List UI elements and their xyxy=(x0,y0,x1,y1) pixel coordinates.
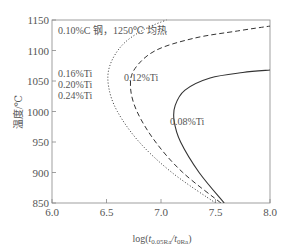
y-tick-label: 1150 xyxy=(27,14,49,26)
y-tick-label: 950 xyxy=(33,136,50,148)
series-group xyxy=(108,20,270,203)
series-line-dashed xyxy=(130,26,270,203)
label-0-16ti: 0.16%Ti xyxy=(58,68,93,79)
x-tick-label: 7.0 xyxy=(154,206,168,218)
x-tick-label: 6.0 xyxy=(45,206,59,218)
y-tick-label: 900 xyxy=(33,167,50,179)
y-tick-label: 1000 xyxy=(27,106,50,118)
label-0-24ti: 0.24%Ti xyxy=(58,90,93,101)
x-tick-label: 6.5 xyxy=(100,206,114,218)
x-axis: 6.06.57.07.58.0 xyxy=(45,199,277,218)
chart: 8509009501000105011001150 6.06.57.07.58.… xyxy=(0,0,288,250)
y-tick-label: 1100 xyxy=(27,45,49,57)
x-tick-label: 8.0 xyxy=(263,206,277,218)
y-axis-title: 温度/℃ xyxy=(12,95,24,129)
x-axis-title: log(t0.05Ra/t0Ra) xyxy=(132,233,191,246)
label-0-08ti: 0.08%Ti xyxy=(170,116,205,127)
x-tick-label: 7.5 xyxy=(209,206,223,218)
chart-annotation: 0.10%C 钢，1250℃ 均热 xyxy=(58,24,167,36)
label-0-20ti: 0.20%Ti xyxy=(58,79,93,90)
plot-area-frame xyxy=(52,20,270,203)
label-0-12ti: 0.12%Ti xyxy=(124,72,159,83)
y-tick-label: 1050 xyxy=(27,75,50,87)
series-line-solid xyxy=(174,70,270,203)
